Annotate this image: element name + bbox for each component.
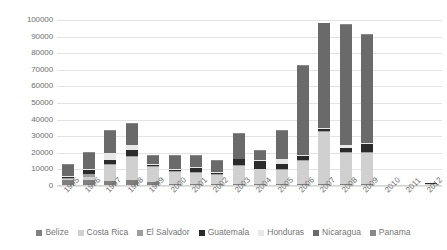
- x-axis-category-labels: 1995199619971998199920002001200220032004…: [57, 188, 442, 222]
- legend-item[interactable]: Honduras: [258, 228, 304, 237]
- legend-swatch-icon: [199, 230, 205, 236]
- bar-segment[interactable]: [83, 153, 95, 170]
- bar-series-container: [57, 20, 442, 186]
- bar-segment[interactable]: [254, 151, 266, 160]
- bar-segment[interactable]: [297, 66, 309, 156]
- y-axis-tick-label: 10000: [31, 165, 53, 173]
- legend-item[interactable]: El Salvador: [137, 228, 189, 237]
- legend-label: El Salvador: [146, 228, 189, 237]
- bar-segment[interactable]: [276, 131, 288, 159]
- bar-segment[interactable]: [340, 25, 352, 145]
- bar-segment[interactable]: [211, 161, 223, 172]
- bar-group[interactable]: [318, 23, 330, 186]
- y-axis-tick-label: 90000: [31, 33, 53, 41]
- bar-segment[interactable]: [169, 156, 181, 169]
- bar-group[interactable]: [340, 24, 352, 186]
- legend-label: Honduras: [267, 228, 304, 237]
- legend-label: Panama: [379, 228, 411, 237]
- bar-segment[interactable]: [62, 165, 74, 176]
- bar-segment[interactable]: [104, 131, 116, 153]
- legend-swatch-icon: [36, 230, 42, 236]
- chart-legend: BelizeCosta RicaEl SalvadorGuatemalaHond…: [0, 228, 447, 237]
- legend-swatch-icon: [370, 230, 376, 236]
- legend-item[interactable]: Belize: [36, 228, 68, 237]
- legend-item[interactable]: Guatemala: [199, 228, 250, 237]
- bar-group[interactable]: [297, 65, 309, 186]
- y-axis-tick-label: 0: [49, 182, 53, 190]
- bar-segment[interactable]: [147, 156, 159, 164]
- stacked-column-chart: 0100002000030000400005000060000700008000…: [0, 0, 447, 250]
- bar-group[interactable]: [361, 34, 373, 186]
- legend-swatch-icon: [137, 230, 143, 236]
- legend-label: Costa Rica: [87, 228, 129, 237]
- plot-area: [57, 20, 442, 186]
- bar-segment[interactable]: [318, 23, 330, 128]
- y-axis-tick-label: 40000: [31, 116, 53, 124]
- y-axis-tick-label: 30000: [31, 132, 53, 140]
- bar-segment[interactable]: [361, 144, 373, 152]
- legend-swatch-icon: [313, 230, 319, 236]
- y-axis-tick-label: 80000: [31, 49, 53, 57]
- bar-segment[interactable]: [361, 35, 373, 143]
- legend-item[interactable]: Costa Rica: [78, 228, 129, 237]
- bar-segment[interactable]: [126, 124, 138, 146]
- y-axis-tick-label: 100000: [27, 16, 53, 24]
- bar-segment[interactable]: [190, 156, 202, 167]
- y-axis-tick-label: 50000: [31, 99, 53, 107]
- bar-segment[interactable]: [254, 161, 266, 168]
- legend-item[interactable]: Nicaragua: [313, 228, 361, 237]
- bar-segment[interactable]: [233, 134, 245, 159]
- legend-label: Belize: [45, 228, 68, 237]
- y-axis-tick-label: 20000: [31, 149, 53, 157]
- legend-label: Guatemala: [208, 228, 250, 237]
- y-axis-tick-label: 70000: [31, 66, 53, 74]
- bar-segment[interactable]: [104, 153, 116, 160]
- legend-swatch-icon: [78, 230, 84, 236]
- y-axis-tick-label: 60000: [31, 82, 53, 90]
- legend-item[interactable]: Panama: [370, 228, 411, 237]
- legend-swatch-icon: [258, 230, 264, 236]
- y-axis-tick-labels: 0100002000030000400005000060000700008000…: [0, 20, 53, 186]
- legend-label: Nicaragua: [322, 228, 361, 237]
